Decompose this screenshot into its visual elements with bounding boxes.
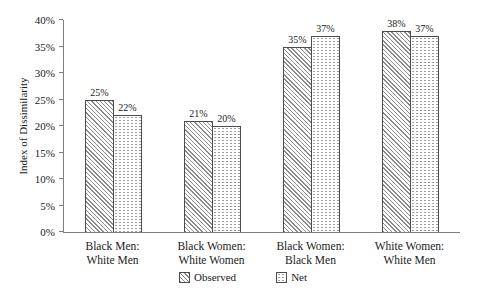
legend: Observed Net — [0, 271, 486, 283]
bar-value-label-observed-2: 35% — [288, 34, 306, 45]
bar-net-1: 20% — [212, 126, 241, 232]
dissimilarity-bar-chart: Index of Dissimilarity 0%5%10%15%20%25%3… — [0, 0, 486, 294]
bar-net-2: 37% — [311, 36, 340, 232]
y-tick-mark-0 — [59, 231, 63, 232]
legend-net-label: Net — [291, 271, 307, 283]
y-tick-mark-5 — [59, 205, 63, 206]
observed-hatch-swatch-icon — [179, 272, 190, 283]
y-tick-label-0: 0% — [40, 226, 55, 238]
y-tick-label-35: 35% — [35, 41, 55, 53]
x-category-label-0-line-0: Black Men: — [86, 240, 140, 252]
bar-observed-0: 25% — [85, 100, 114, 233]
bar-value-label-observed-1: 21% — [189, 108, 207, 119]
y-tick-mark-40 — [59, 19, 63, 20]
bar-observed-3: 38% — [382, 31, 411, 232]
bar-group-2: 35%37% — [262, 20, 361, 232]
y-tick-label-20: 20% — [35, 120, 55, 132]
bar-value-label-net-3: 37% — [415, 23, 433, 34]
bar-group-1: 21%20% — [163, 20, 262, 232]
y-tick-mark-20 — [59, 125, 63, 126]
bar-observed-2: 35% — [283, 47, 312, 233]
bar-value-label-net-1: 20% — [217, 113, 235, 124]
bars-region: 25%22%21%20%35%37%38%37% — [64, 20, 460, 232]
x-category-label-2-line-0: Black Women: — [276, 240, 344, 252]
bar-value-label-net-0: 22% — [118, 102, 136, 113]
x-category-label-2-line-1: Black Men — [285, 254, 336, 266]
y-tick-label-30: 30% — [35, 67, 55, 79]
y-tick-mark-35 — [59, 46, 63, 47]
y-tick-label-5: 5% — [40, 200, 55, 212]
x-category-label-2: Black Women:Black Men — [261, 239, 360, 267]
legend-observed-label: Observed — [194, 271, 236, 283]
y-axis-title: Index of Dissimilarity — [17, 77, 29, 174]
net-dots-swatch-icon — [276, 272, 287, 283]
x-category-label-0-line-1: White Men — [86, 254, 138, 266]
y-tick-mark-10 — [59, 178, 63, 179]
x-category-label-1-line-1: White Women — [178, 254, 244, 266]
x-category-label-1-line-0: Black Women: — [177, 240, 245, 252]
y-tick-label-40: 40% — [35, 14, 55, 26]
x-category-label-3-line-0: White Women: — [375, 240, 444, 252]
bar-value-label-observed-0: 25% — [90, 87, 108, 98]
y-tick-mark-25 — [59, 99, 63, 100]
x-category-label-1: Black Women:White Women — [162, 239, 261, 267]
x-category-label-0: Black Men:White Men — [63, 239, 162, 267]
bar-group-0: 25%22% — [64, 20, 163, 232]
bar-group-3: 38%37% — [361, 20, 460, 232]
y-tick-mark-30 — [59, 72, 63, 73]
bar-observed-1: 21% — [184, 121, 213, 232]
plot-area: 0%5%10%15%20%25%30%35%40% 25%22%21%20%35… — [63, 20, 460, 233]
y-tick-label-15: 15% — [35, 147, 55, 159]
y-tick-label-10: 10% — [35, 173, 55, 185]
x-category-label-3: White Women:White Men — [360, 239, 459, 267]
y-tick-label-25: 25% — [35, 94, 55, 106]
bar-net-0: 22% — [113, 115, 142, 232]
x-category-label-3-line-1: White Men — [383, 254, 435, 266]
y-tick-mark-15 — [59, 152, 63, 153]
x-axis-category-labels: Black Men:White MenBlack Women:White Wom… — [63, 239, 459, 267]
legend-item-net: Net — [276, 271, 307, 283]
legend-item-observed: Observed — [179, 271, 236, 283]
bar-net-3: 37% — [410, 36, 439, 232]
bar-value-label-net-2: 37% — [316, 23, 334, 34]
bar-value-label-observed-3: 38% — [387, 18, 405, 29]
